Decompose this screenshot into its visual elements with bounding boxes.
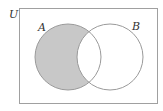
venn-diagram: U A B xyxy=(0,0,163,111)
set-b-label: B xyxy=(131,20,140,33)
set-a-label: A xyxy=(37,21,46,34)
universe-label: U xyxy=(9,8,19,21)
